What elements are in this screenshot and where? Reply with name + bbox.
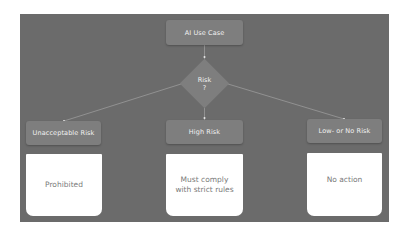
outcome-text: Prohibited bbox=[45, 180, 83, 190]
edge-decision-to-unacceptable bbox=[64, 84, 181, 121]
edge-decision-to-low bbox=[228, 84, 344, 119]
outcome-text-line1: Must comply bbox=[175, 175, 233, 185]
outcome-box-no-action: No action bbox=[307, 153, 382, 216]
branch-node-unacceptable-risk: Unacceptable Risk bbox=[26, 121, 101, 145]
decision-question-mark: ? bbox=[203, 84, 206, 92]
branch-node-high-risk: High Risk bbox=[166, 120, 243, 144]
connector-dot bbox=[204, 117, 206, 119]
branch-label: Low- or No Risk bbox=[319, 127, 371, 135]
branch-label: High Risk bbox=[189, 128, 220, 136]
decision-node-risk: Risk ? bbox=[180, 59, 229, 108]
branch-node-low-or-no-risk: Low- or No Risk bbox=[307, 119, 382, 143]
outcome-box-must-comply: Must comply with strict rules bbox=[166, 154, 243, 216]
outcome-text-line2: with strict rules bbox=[175, 185, 233, 195]
outcome-box-prohibited: Prohibited bbox=[26, 154, 102, 216]
outcome-text: No action bbox=[327, 175, 363, 185]
decision-label: Risk bbox=[198, 76, 211, 84]
root-node-ai-use-case: AI Use Case bbox=[166, 20, 243, 45]
root-node-label: AI Use Case bbox=[185, 29, 225, 37]
branch-label: Unacceptable Risk bbox=[33, 129, 95, 137]
